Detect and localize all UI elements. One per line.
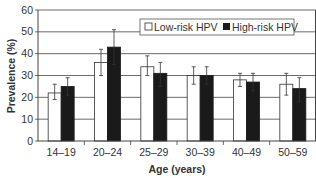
y-tick-label: 30 [21, 69, 33, 81]
y-tick-label: 0 [27, 135, 33, 147]
x-axis-ticks: 14–1920–2425–2930–3940–4950–59 [47, 141, 308, 158]
bar-high-risk [200, 76, 213, 142]
bar-low-risk [234, 80, 247, 141]
bar-series [48, 47, 306, 141]
y-tick-label: 20 [21, 91, 33, 103]
x-axis-title: Age (years) [148, 163, 205, 175]
y-axis-title: Prevalence (%) [5, 39, 17, 114]
legend-swatch-low-risk [145, 23, 152, 30]
x-tick-label: 14–19 [47, 146, 76, 158]
x-tick-label: 20–24 [93, 146, 122, 158]
y-axis-ticks: 0102030405060 [21, 4, 38, 147]
bar-chart: 0102030405060 14–1920–2425–2930–3940–495… [0, 0, 316, 178]
bar-low-risk [187, 76, 200, 142]
legend-label-low-risk: Low-risk HPV [154, 21, 218, 33]
legend-swatch-high-risk [223, 23, 230, 30]
legend-label-high-risk: High-risk HPV [232, 21, 298, 33]
y-tick-label: 10 [21, 113, 33, 125]
x-tick-label: 40–49 [232, 146, 261, 158]
legend: Low-risk HPV High-risk HPV [140, 19, 298, 35]
x-tick-label: 30–39 [186, 146, 215, 158]
x-tick-label: 50–59 [278, 146, 307, 158]
bar-low-risk [48, 93, 61, 141]
y-tick-label: 40 [21, 47, 33, 59]
y-tick-label: 50 [21, 25, 33, 37]
bar-low-risk [141, 67, 154, 141]
x-tick-label: 25–29 [139, 146, 168, 158]
error-bars [53, 30, 302, 102]
y-tick-label: 60 [21, 4, 33, 16]
